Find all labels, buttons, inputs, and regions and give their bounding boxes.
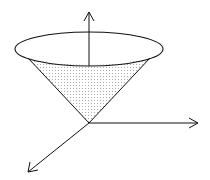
- y-axis: [28, 123, 89, 172]
- cone-diagram: [0, 0, 210, 180]
- z-axis: [84, 12, 94, 66]
- cone-shaded-surface: [28, 58, 150, 123]
- x-axis: [89, 118, 198, 128]
